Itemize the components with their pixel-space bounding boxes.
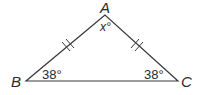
triangle-diagram: A B C x° 38° 38° [0, 0, 201, 95]
vertex-label-b: B [11, 74, 21, 89]
angle-label-a: x° [100, 21, 111, 33]
vertex-label-a: A [100, 0, 110, 15]
angle-label-b: 38° [42, 68, 62, 81]
angle-label-c: 38° [144, 68, 164, 81]
vertex-label-c: C [181, 74, 192, 89]
